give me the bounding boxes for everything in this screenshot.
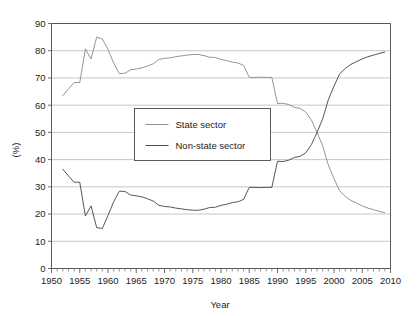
x-tick-label-1995: 1995 xyxy=(295,275,316,286)
x-tick-label-1970: 1970 xyxy=(154,275,175,286)
x-tick-label-1990: 1990 xyxy=(267,275,288,286)
y-tick-label-0: 0 xyxy=(40,263,45,274)
x-tick-label-1975: 1975 xyxy=(182,275,203,286)
legend-box xyxy=(135,109,271,161)
x-tick-label-2010: 2010 xyxy=(380,275,401,286)
y-tick-label-10: 10 xyxy=(35,236,46,247)
chart-figure: 0102030405060708090 19501955196019651970… xyxy=(0,0,417,316)
x-tick-label-1960: 1960 xyxy=(97,275,118,286)
x-tick-label-2000: 2000 xyxy=(323,275,344,286)
y-tick-label-20: 20 xyxy=(35,208,46,219)
y-tick-label-50: 50 xyxy=(35,127,46,138)
legend-label-state-sector: State sector xyxy=(176,119,227,130)
y-tick-label-80: 80 xyxy=(35,45,46,56)
x-tick-label-1980: 1980 xyxy=(210,275,231,286)
x-tick-label-1985: 1985 xyxy=(239,275,260,286)
x-tick-label-1950: 1950 xyxy=(41,275,62,286)
x-tick-label-2005: 2005 xyxy=(352,275,373,286)
x-tick-label-1955: 1955 xyxy=(69,275,90,286)
y-tick-label-60: 60 xyxy=(35,100,46,111)
y-tick-label-70: 70 xyxy=(35,72,46,83)
legend-label-non-state-sector: Non-state sector xyxy=(176,140,246,151)
y-tick-label-30: 30 xyxy=(35,181,46,192)
x-tick-label-1965: 1965 xyxy=(126,275,147,286)
y-tick-label-90: 90 xyxy=(35,18,46,29)
y-axis-title: (%) xyxy=(10,143,21,158)
x-axis-title: Year xyxy=(210,299,229,310)
y-tick-label-40: 40 xyxy=(35,154,46,165)
chart-legend: State sectorNon-state sector xyxy=(135,109,271,161)
